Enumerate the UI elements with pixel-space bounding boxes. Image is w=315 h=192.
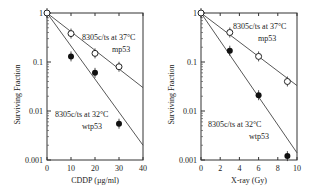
filled-circle-marker [116, 121, 122, 127]
annotation-sublabel: wtp53 [249, 132, 269, 141]
x-tick-label: 2 [218, 164, 222, 173]
y-tick-label: 0.01 [183, 107, 197, 116]
x-tick-label: 40 [139, 164, 147, 173]
x-tick-label: 10 [293, 164, 301, 173]
y-axis-label: Surviving Fraction [167, 64, 176, 124]
chart-figure: 10.10.010.001010203040CDDP (µg/ml)Surviv… [0, 0, 315, 192]
x-tick-label: 10 [67, 164, 75, 173]
x-tick-label: 30 [115, 164, 123, 173]
y-tick-label: 0.01 [29, 107, 43, 116]
open-circle-marker [256, 53, 262, 59]
y-axis-label: Surviving Fraction [13, 64, 22, 124]
y-tick-label: 0.001 [179, 156, 197, 165]
filled-circle-marker [256, 92, 262, 98]
annotation-sublabel: wtp53 [82, 122, 102, 131]
y-tick-label: 0.001 [25, 156, 43, 165]
x-tick-label: 8 [276, 164, 280, 173]
x-tick-label: 0 [199, 164, 203, 173]
open-circle-marker [68, 31, 74, 37]
filled-circle-marker [227, 48, 233, 54]
x-tick-label: 20 [91, 164, 99, 173]
annotation-label: 8305c/ts at 32°C [208, 120, 261, 129]
annotation-label: 8305c/ts at 32°C [55, 110, 108, 119]
y-tick-label: 0.1 [187, 58, 197, 67]
cddp-survival-chart: 10.10.010.001010203040CDDP (µg/ml)Surviv… [0, 0, 315, 192]
y-tick-label: 1 [39, 9, 43, 18]
y-tick-label: 1 [193, 9, 197, 18]
annotation-label: 8305c/ts at 37°C [233, 22, 286, 31]
annotation-sublabel: mp53 [112, 45, 130, 54]
open-circle-marker [284, 78, 290, 84]
open-circle-marker [198, 10, 204, 16]
filled-circle-marker [92, 70, 98, 76]
x-tick-label: 6 [257, 164, 261, 173]
annotation-sublabel: mp53 [258, 34, 276, 43]
x-tick-label: 0 [45, 164, 49, 173]
open-circle-marker [227, 29, 233, 35]
filled-circle-marker [284, 153, 290, 159]
open-circle-marker [92, 50, 98, 56]
x-axis-label: X-ray (Gy) [231, 176, 267, 185]
filled-circle-marker [68, 53, 74, 59]
open-circle-marker [116, 64, 122, 70]
x-axis-label: CDDP (µg/ml) [71, 176, 119, 185]
x-tick-label: 4 [237, 164, 241, 173]
y-tick-label: 0.1 [33, 58, 43, 67]
xray-plot: 10.10.010.0010246810X-ray (Gy)Surviving … [167, 8, 301, 185]
open-circle-marker [44, 10, 50, 16]
cddp-plot: 10.10.010.001010203040CDDP (µg/ml)Surviv… [13, 8, 147, 185]
annotation-label: 8305c/ts at 37°C [82, 33, 135, 42]
